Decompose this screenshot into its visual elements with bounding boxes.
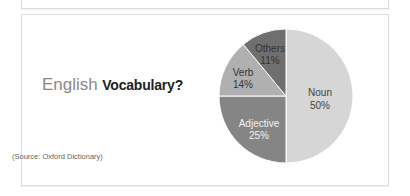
svg-text:Verb: Verb xyxy=(233,67,254,78)
slice-label-verb: Verb 14% xyxy=(233,67,254,90)
svg-text:50%: 50% xyxy=(310,100,330,111)
pie-slices xyxy=(219,29,353,163)
svg-text:Adjective: Adjective xyxy=(239,118,280,129)
svg-text:Others: Others xyxy=(255,43,285,54)
source-note: (Source: Oxford Dictionary) xyxy=(12,152,103,161)
svg-text:14%: 14% xyxy=(233,79,253,90)
svg-text:25%: 25% xyxy=(249,130,269,141)
pie-chart: Noun 50% Adjective 25% Verb 14% Others 1… xyxy=(0,0,410,196)
svg-text:Noun: Noun xyxy=(308,87,332,98)
svg-text:11%: 11% xyxy=(260,55,279,66)
